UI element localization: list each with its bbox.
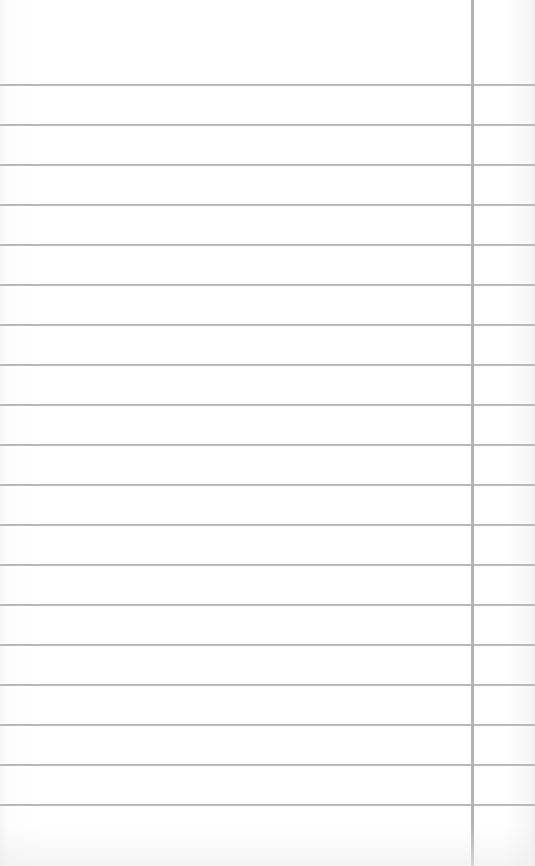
ruled-line [0,164,535,166]
ruled-line [0,364,535,366]
ruled-line [0,564,535,566]
ruled-line [0,84,535,86]
ruled-line [0,524,535,526]
ruled-line [0,484,535,486]
ruled-line [0,444,535,446]
ruled-line [0,724,535,726]
ruled-line [0,244,535,246]
ruled-line [0,324,535,326]
ruled-line [0,124,535,126]
ruled-line [0,204,535,206]
ruled-line [0,804,535,806]
margin-line [471,0,474,866]
ruled-line [0,684,535,686]
lined-paper [0,0,535,866]
ruled-line [0,604,535,606]
bottom-shadow [0,826,535,866]
ruled-line [0,404,535,406]
ruled-line [0,644,535,646]
ruled-line [0,284,535,286]
ruled-line [0,764,535,766]
